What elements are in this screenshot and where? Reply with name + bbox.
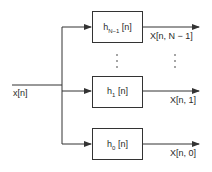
filter-bank-diagram: x[n] hN−1 [n] h1 [n] h0 [n] X[n, N − 1] … [0, 0, 212, 172]
filter-subscript: 0 [112, 145, 115, 151]
output-label-n-minus-1: X[n, N − 1] [150, 31, 193, 41]
filter-box-n-minus-1: hN−1 [n] [92, 22, 143, 36]
filter-arg: [n] [118, 86, 128, 96]
filter-arg: [n] [118, 139, 128, 149]
filter-box-0: h0 [n] [92, 139, 143, 153]
filter-subscript: N−1 [108, 28, 119, 34]
output-label-1: X[n, 1] [170, 95, 196, 105]
filter-subscript: 1 [112, 92, 115, 98]
filter-box-1: h1 [n] [92, 86, 143, 100]
filter-arg: [n] [122, 22, 132, 32]
input-label: x[n] [13, 88, 28, 98]
output-label-0: X[n, 0] [170, 148, 196, 158]
